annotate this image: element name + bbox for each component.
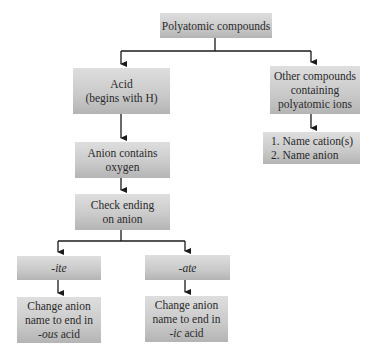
node-label: name to end in xyxy=(152,312,220,326)
node-polyatomic-compounds: Polyatomic compounds xyxy=(160,13,272,38)
node-label: containing xyxy=(291,83,340,97)
node-label: Other compounds xyxy=(274,69,356,83)
suffix-italic: -ous xyxy=(38,328,58,340)
node-label: Change anion xyxy=(27,299,91,313)
node-other-compounds: Other compounds containing polyatomic io… xyxy=(270,66,360,114)
node-check-ending: Check ending on anion xyxy=(75,194,170,230)
node-change-to-ic-acid: Change anion name to end in -ic acid xyxy=(145,296,228,342)
suffix-rest: acid xyxy=(58,328,80,340)
node-change-to-ous-acid: Change anion name to end in -ous acid xyxy=(17,297,101,343)
node-naming-steps: 1. Name cation(s) 2. Name anion xyxy=(263,132,360,164)
node-label: polyatomic ions xyxy=(278,97,352,111)
node-acid: Acid (begins with H) xyxy=(73,68,170,114)
node-label: Check ending xyxy=(91,198,155,212)
node-label: Polyatomic compounds xyxy=(162,19,270,33)
step-name-cation: 1. Name cation(s) xyxy=(271,134,353,148)
node-label: (begins with H) xyxy=(85,91,157,105)
node-label: Change anion xyxy=(155,298,219,312)
node-ite: -ite xyxy=(17,256,101,280)
node-anion-contains-oxygen: Anion contains oxygen xyxy=(75,142,170,178)
node-label: oxygen xyxy=(106,160,140,174)
node-label-suffix: -ic acid xyxy=(169,326,203,340)
node-label: Anion contains xyxy=(88,146,158,160)
node-ate: -ate xyxy=(145,255,230,280)
step-name-anion: 2. Name anion xyxy=(271,148,338,162)
node-label: name to end in xyxy=(25,313,93,327)
node-label: -ate xyxy=(179,261,197,275)
node-label-suffix: -ous acid xyxy=(38,327,80,341)
suffix-italic: -ic xyxy=(169,327,181,339)
node-label: -ite xyxy=(51,261,66,275)
node-label: Acid xyxy=(110,77,132,91)
node-label: on anion xyxy=(103,212,143,226)
suffix-rest: acid xyxy=(182,327,204,339)
